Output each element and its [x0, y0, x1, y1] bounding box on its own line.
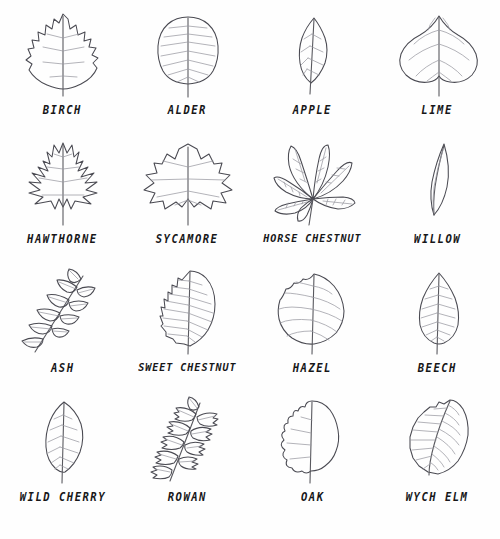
leaf-label-apple: APPLE [293, 103, 332, 117]
hazel-leaf-illustration [257, 266, 369, 358]
leaf-label-alder: ALDER [168, 103, 207, 117]
leaf-label-rowan: ROWAN [168, 490, 207, 504]
leaf-grid: BIRCH ALDER APPLE [0, 0, 500, 524]
apple-leaf-illustration [257, 8, 369, 100]
horse-chestnut-leaf-illustration [257, 137, 369, 229]
leaf-label-sycamore: SYCAMORE [156, 232, 219, 246]
rowan-leaf-illustration [132, 395, 244, 487]
hawthorne-leaf-illustration [7, 137, 119, 229]
leaf-cell-willow: WILLOW [375, 137, 500, 266]
leaf-cell-hazel: HAZEL [250, 266, 375, 395]
leaf-cell-apple: APPLE [250, 8, 375, 137]
leaf-label-beech: BEECH [418, 361, 457, 375]
leaf-cell-birch: BIRCH [0, 8, 125, 137]
leaf-cell-oak: OAK [250, 395, 375, 524]
leaf-cell-beech: BEECH [375, 266, 500, 395]
leaf-cell-sweet-chestnut: SWEET CHESTNUT [125, 266, 250, 395]
leaf-cell-wild-cherry: WILD CHERRY [0, 395, 125, 524]
leaf-label-lime: LIME [422, 103, 453, 117]
leaf-label-oak: OAK [301, 490, 325, 504]
leaf-label-hazel: HAZEL [293, 361, 332, 375]
ash-leaf-illustration [7, 266, 119, 358]
leaf-cell-sycamore: SYCAMORE [125, 137, 250, 266]
oak-leaf-illustration [257, 395, 369, 487]
leaf-cell-hawthorne: HAWTHORNE [0, 137, 125, 266]
leaf-cell-horse-chestnut: HORSE CHESTNUT [250, 137, 375, 266]
leaf-cell-rowan: ROWAN [125, 395, 250, 524]
leaf-label-willow: WILLOW [414, 232, 461, 246]
leaf-label-sweet-chestnut: SWEET CHESTNUT [138, 361, 236, 374]
leaf-cell-alder: ALDER [125, 8, 250, 137]
alder-leaf-illustration [132, 8, 244, 100]
beech-leaf-illustration [382, 266, 494, 358]
leaf-chart-sheet: BIRCH ALDER APPLE [0, 0, 500, 539]
leaf-label-birch: BIRCH [43, 103, 82, 117]
leaf-cell-lime: LIME [375, 8, 500, 137]
sweet-chestnut-leaf-illustration [132, 266, 244, 358]
leaf-cell-ash: ASH [0, 266, 125, 395]
wych-elm-leaf-illustration [382, 395, 494, 487]
leaf-label-hawthorne: HAWTHORNE [27, 232, 98, 246]
birch-leaf-illustration [7, 8, 119, 100]
leaf-label-ash: ASH [51, 361, 75, 375]
wild-cherry-leaf-illustration [7, 395, 119, 487]
leaf-label-wych-elm: WYCH ELM [406, 490, 469, 504]
sycamore-leaf-illustration [132, 137, 244, 229]
lime-leaf-illustration [382, 8, 494, 100]
willow-leaf-illustration [382, 137, 494, 229]
leaf-label-wild-cherry: WILD CHERRY [19, 490, 105, 504]
leaf-label-horse-chestnut: HORSE CHESTNUT [263, 232, 361, 245]
leaf-cell-wych-elm: WYCH ELM [375, 395, 500, 524]
